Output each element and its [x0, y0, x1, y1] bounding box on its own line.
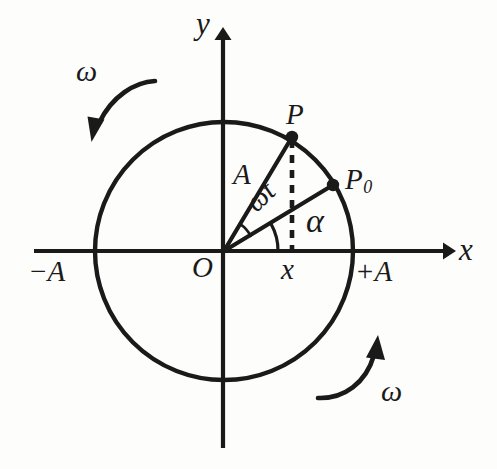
rotation-omega-top-left-label: ω	[76, 56, 97, 86]
rotation-arrow-bottom-right-head	[366, 335, 385, 360]
origin-label: O	[192, 253, 213, 282]
x-axis-positive-amplitude-label: +A	[355, 257, 392, 286]
point-p0-base: P	[345, 163, 363, 195]
angle-arc-omega-t	[240, 224, 250, 236]
angle-alpha-label: α	[306, 204, 324, 238]
rotation-arrow-bottom-right-curve	[318, 355, 374, 398]
point-marker-p0	[327, 179, 339, 191]
rotation-omega-bottom-right-label: ω	[381, 376, 402, 406]
point-p0-label: P0	[345, 165, 372, 196]
displacement-x-label: x	[281, 255, 294, 284]
y-axis-label: y	[196, 8, 210, 39]
angle-arc-alpha	[271, 224, 278, 251]
rotation-arrow-top-left-curve	[99, 81, 155, 123]
y-axis	[215, 27, 232, 448]
x-axis-label: x	[459, 234, 473, 265]
rotation-arrow-top-left	[88, 81, 156, 142]
diagram-canvas	[0, 0, 497, 469]
point-p-label: P	[286, 100, 304, 129]
x-axis-arrowhead	[443, 243, 456, 260]
point-marker-p	[286, 131, 298, 143]
shm-reference-circle-figure: y x −A +A O P P0 A x ωt α ω ω	[0, 0, 497, 469]
rotation-arrow-top-left-head	[88, 117, 105, 143]
x-axis-negative-amplitude-label: −A	[28, 257, 65, 286]
y-axis-arrowhead	[215, 27, 232, 40]
rotation-arrow-bottom-right	[318, 335, 385, 398]
point-p0-subscript: 0	[363, 177, 372, 197]
